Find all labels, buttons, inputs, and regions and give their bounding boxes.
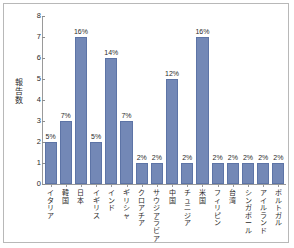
bar-slot: 2% xyxy=(180,16,195,184)
bar[interactable] xyxy=(90,142,102,184)
x-tick-mark xyxy=(248,184,249,187)
y-tick-mark xyxy=(42,163,45,164)
bar-slot: 16% xyxy=(73,16,88,184)
x-axis-category-label: サ ウ ジ ア ラ ビ ア xyxy=(149,189,164,242)
x-axis-category-label: ク ロ ア チ ア xyxy=(134,189,149,227)
bar[interactable] xyxy=(136,163,148,184)
x-tick-mark xyxy=(66,184,67,187)
bar[interactable] xyxy=(227,163,239,184)
y-tick-mark xyxy=(42,184,45,185)
x-axis-category-label: イ タ リ ア xyxy=(43,189,58,219)
x-axis-labels: イ タ リ ア韓 国日 本イ ギ リ スイ ン ドギ リ シ ャク ロ ア チ … xyxy=(43,189,286,245)
x-tick-mark xyxy=(96,184,97,187)
bar[interactable] xyxy=(105,58,117,184)
bar[interactable] xyxy=(212,163,224,184)
x-tick-mark xyxy=(278,184,279,187)
x-axis-category-label: 日 本 xyxy=(73,189,88,204)
bars-container: 5%7%16%5%14%7%2%2%12%2%16%2%2%2%2%2% xyxy=(43,16,286,184)
x-axis-category-label: 米 国 xyxy=(195,189,210,204)
x-tick-mark xyxy=(157,184,158,187)
x-axis-category-label: ア イ ル ラ ン ド xyxy=(256,189,271,235)
x-tick-mark xyxy=(233,184,234,187)
chart-plot-wrapper: 報告数 012345678 5%7%16%5%14%7%2%2%12%2%16%… xyxy=(4,4,290,244)
y-tick-mark xyxy=(42,16,45,17)
bar[interactable] xyxy=(257,163,269,184)
bar-slot: 5% xyxy=(89,16,104,184)
x-tick-mark xyxy=(51,184,52,187)
bar[interactable] xyxy=(120,121,132,184)
x-axis-category-label: ポ ル ト ガ ル xyxy=(271,189,286,227)
chart-frame: 報告数 012345678 5%7%16%5%14%7%2%2%12%2%16%… xyxy=(3,3,289,243)
x-tick-mark xyxy=(202,184,203,187)
x-axis-category-label: シ ン ガ ポ ー ル xyxy=(240,189,255,235)
bar[interactable] xyxy=(166,79,178,184)
bar[interactable] xyxy=(60,121,72,184)
y-tick-mark xyxy=(42,79,45,80)
bar[interactable] xyxy=(151,163,163,184)
y-tick-mark xyxy=(42,142,45,143)
bar[interactable] xyxy=(45,142,57,184)
bar[interactable] xyxy=(242,163,254,184)
y-axis-ticks: 012345678 xyxy=(24,16,44,184)
bar[interactable] xyxy=(181,163,193,184)
y-tick-mark xyxy=(42,121,45,122)
x-tick-mark xyxy=(187,184,188,187)
bar[interactable] xyxy=(75,37,87,184)
bar-slot: 2% xyxy=(149,16,164,184)
x-tick-mark xyxy=(218,184,219,187)
x-tick-mark xyxy=(142,184,143,187)
x-axis-line xyxy=(42,184,286,185)
x-axis-category-label: イ ギ リ ス xyxy=(89,189,104,219)
x-axis-category-label: チ ュ ニ ジ ア xyxy=(180,189,195,227)
x-axis-category-label: ギ リ シ ャ xyxy=(119,189,134,219)
x-tick-mark xyxy=(127,184,128,187)
x-axis-category-label: イ ン ド xyxy=(104,189,119,212)
x-axis-category-label: 台 湾 xyxy=(225,189,240,204)
x-tick-mark xyxy=(111,184,112,187)
x-axis-category-label: フ ィ リ ピ ン xyxy=(210,189,225,227)
x-tick-mark xyxy=(81,184,82,187)
y-axis-label: 報告数 xyxy=(13,78,24,105)
y-tick-mark xyxy=(42,100,45,101)
x-tick-mark xyxy=(172,184,173,187)
y-tick-mark xyxy=(42,37,45,38)
x-axis-category-label: 韓 国 xyxy=(58,189,73,204)
bar-slot: 2% xyxy=(271,16,286,184)
bar-value-label: 2% xyxy=(265,154,292,162)
x-axis-category-label: 中 国 xyxy=(165,189,180,204)
bar[interactable] xyxy=(272,163,284,184)
y-tick-mark xyxy=(42,58,45,59)
x-tick-mark xyxy=(263,184,264,187)
bar-slot: 7% xyxy=(58,16,73,184)
bar-slot: 14% xyxy=(104,16,119,184)
bar-slot: 5% xyxy=(43,16,58,184)
